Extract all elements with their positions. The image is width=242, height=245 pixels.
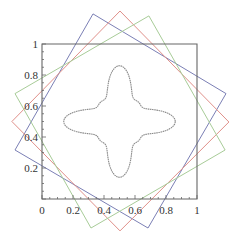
y-tick-label: 1 <box>33 38 39 50</box>
y-tick-label: 0.8 <box>24 69 38 81</box>
x-tick-label: 1 <box>194 204 200 216</box>
blue-rotated-square <box>15 14 226 228</box>
axis-labels: 00.20.40.60.810.20.40.60.81 <box>24 38 200 216</box>
x-tick-label: 0.6 <box>128 204 142 216</box>
four-lobed-star-curve <box>64 66 176 178</box>
y-tick-label: 0.4 <box>24 131 38 143</box>
star-curve <box>64 66 176 178</box>
x-tick-label: 0.8 <box>159 204 173 216</box>
x-tick-label: 0.2 <box>66 204 80 216</box>
chart-canvas: 00.20.40.60.810.20.40.60.81 <box>0 0 242 245</box>
x-tick-label: 0.4 <box>97 204 111 216</box>
x-tick-label: 0 <box>39 204 45 216</box>
green-rotated-square <box>15 16 225 228</box>
y-tick-label: 0.6 <box>24 100 38 112</box>
y-tick-label: 0.2 <box>24 162 38 174</box>
